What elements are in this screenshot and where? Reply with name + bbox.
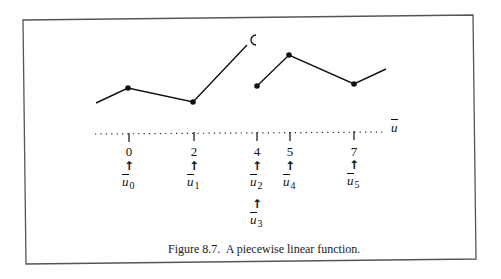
arrow-up-icon: ↑: [247, 160, 267, 172]
point-u4: [286, 52, 292, 58]
figure-canvas: [0, 0, 501, 279]
open-endpoint-marker: [251, 35, 256, 45]
figure-frame: u 0 2 4 5 7 ↑ ↑ ↑ ↑ ↑ u0 u1 u2 u4 u5 ↑ u…: [0, 0, 501, 279]
tick-label-5: 5: [280, 145, 300, 158]
knot-label-base: u: [250, 175, 257, 189]
tick-label-7: 7: [344, 145, 364, 158]
arrow-up-icon: ↑: [247, 198, 267, 210]
arrow-up-icon: ↑: [119, 160, 139, 172]
knot-label-base: u: [283, 175, 290, 189]
knot-label-u2: u2: [250, 175, 263, 190]
knot-label-u1: u1: [187, 175, 200, 190]
knot-label-base: u: [187, 175, 194, 189]
arrow-up-icon: ↑: [280, 160, 300, 172]
axis-label-ubar: u: [391, 120, 398, 136]
point-u0: [125, 85, 131, 91]
arrow-up-icon: ↑: [184, 160, 204, 172]
tick-label-2: 2: [184, 145, 204, 158]
knot-label-base: u: [122, 175, 129, 189]
segment-left: [96, 45, 247, 103]
arrow-up-icon: ↑: [344, 159, 364, 171]
tick-label-4: 4: [247, 145, 267, 158]
tick-label-0: 0: [119, 145, 139, 158]
point-u5: [351, 81, 357, 87]
axis-label-text: u: [391, 120, 398, 136]
point-u1: [190, 99, 196, 105]
knot-label-sub: 1: [195, 180, 200, 191]
figure-caption: Figure 8.7. A piecewise linear function.: [168, 242, 360, 256]
knot-label-u3: u3: [250, 213, 263, 228]
point-u3: [254, 83, 260, 89]
u-axis: [95, 132, 386, 134]
knot-label-u4: u4: [283, 175, 296, 190]
knot-points: [125, 52, 357, 105]
knot-label-base: u: [347, 174, 354, 188]
knot-label-sub: 4: [291, 180, 296, 191]
knot-label-base: u: [250, 213, 257, 227]
segment-right: [257, 55, 386, 86]
knot-label-sub: 2: [258, 180, 263, 191]
knot-label-sub: 3: [258, 218, 263, 229]
knot-label-u5: u5: [347, 174, 360, 189]
knot-label-u0: u0: [122, 175, 135, 190]
knot-label-sub: 0: [130, 180, 135, 191]
knot-label-sub: 5: [355, 179, 360, 190]
